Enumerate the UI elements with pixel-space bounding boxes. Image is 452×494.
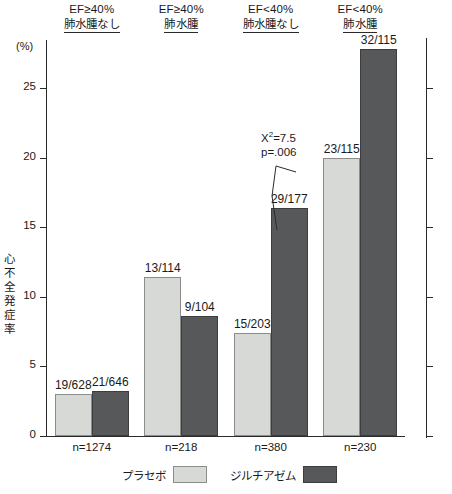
annotation-leader-line xyxy=(0,0,452,494)
legend-swatch-diltiazem xyxy=(303,466,337,483)
p-value: p=.006 xyxy=(261,145,297,159)
chart-figure: EF≥40% 肺水腫なし EF≥40% 肺水腫 EF<40% 肺水腫なし EF<… xyxy=(0,0,452,494)
chi-rest: =7.5 xyxy=(273,132,296,144)
chart-legend: プラセボ ジルチアゼム xyxy=(122,466,337,483)
legend-label-diltiazem: ジルチアゼム xyxy=(230,467,296,483)
chi-symbol: X xyxy=(261,132,269,144)
legend-label-placebo: プラセボ xyxy=(122,467,166,483)
chi-square-value: X2=7.5 xyxy=(261,128,297,145)
legend-swatch-placebo xyxy=(173,466,207,483)
chi-square-annotation: X2=7.5 p=.006 xyxy=(261,128,297,159)
